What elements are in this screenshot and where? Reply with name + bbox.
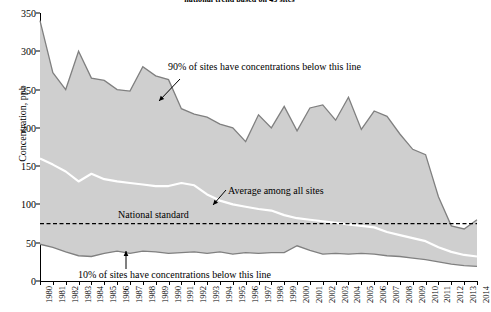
x-tick-mark [79,281,80,285]
x-tick-mark [271,281,272,285]
x-tick-mark [464,281,465,285]
x-tick-label: 2013 [468,286,478,303]
x-tick-label: 1990 [173,286,183,303]
x-tick-label: 2001 [314,286,324,303]
y-tick-label: 200 [21,122,36,133]
x-tick-mark [66,281,67,285]
x-tick-mark [233,281,234,285]
x-tick-label: 1984 [95,286,105,303]
x-tick-label: 1991 [185,286,195,303]
x-tick-label: 1998 [275,286,285,303]
x-tick-label: 1980 [44,286,54,303]
plot-svg [40,13,477,281]
x-tick-mark [169,281,170,285]
x-tick-mark [181,281,182,285]
x-tick-label: 1981 [57,286,67,303]
x-tick-label: 1985 [108,286,118,303]
x-tick-mark [207,281,208,285]
x-tick-label: 1994 [224,286,234,303]
x-tick-mark [374,281,375,285]
y-tick-label: 0 [31,276,36,287]
x-tick-label: 1988 [147,286,157,303]
national-standard-label: National standard [118,209,189,220]
x-tick-mark [284,281,285,285]
y-tick-label: 350 [21,8,36,19]
x-tick-mark [426,281,427,285]
x-tick-label: 1992 [198,286,208,303]
x-tick-mark [400,281,401,285]
p10-annotation-label: 10% of sites have concentrations below t… [78,269,271,280]
y-tick-label: 50 [26,237,36,248]
chart-title: national trend based on 43 sites [0,0,479,4]
x-tick-label: 2007 [391,286,401,303]
x-tick-label: 1996 [250,286,260,303]
y-tick-label: 250 [21,84,36,95]
y-tick-label: 100 [21,199,36,210]
x-tick-mark [130,281,131,285]
x-tick-label: 2012 [455,286,465,303]
x-tick-label: 2010 [430,286,440,303]
x-tick-mark [143,281,144,285]
plot-area: 050100150200250300350 198019811982198319… [40,13,477,281]
x-tick-label: 1995 [237,286,247,303]
x-tick-mark [310,281,311,285]
y-tick-label: 150 [21,161,36,172]
average-annotation-label: Average among all sites [228,185,324,196]
x-tick-label: 1983 [83,286,93,303]
x-tick-mark [297,281,298,285]
x-tick-label: 2002 [327,286,337,303]
x-tick-mark [91,281,92,285]
x-tick-label: 1982 [70,286,80,303]
x-tick-label: 2014 [481,286,491,303]
x-tick-mark [323,281,324,285]
x-tick-mark [53,281,54,285]
x-tick-label: 2004 [352,286,362,303]
x-tick-mark [40,281,41,285]
x-tick-label: 1989 [160,286,170,303]
x-tick-mark [259,281,260,285]
x-tick-mark [387,281,388,285]
x-tick-label: 2011 [442,286,452,303]
x-tick-mark [361,281,362,285]
x-tick-label: 1997 [263,286,273,303]
x-tick-mark [220,281,221,285]
x-tick-label: 2008 [404,286,414,303]
p90-annotation-label: 90% of sites have concentrations below t… [168,61,361,72]
x-tick-mark [117,281,118,285]
x-tick-mark [246,281,247,285]
x-tick-mark [413,281,414,285]
x-tick-label: 2006 [378,286,388,303]
x-tick-label: 1999 [288,286,298,303]
x-tick-mark [104,281,105,285]
x-tick-mark [438,281,439,285]
x-tick-label: 2003 [340,286,350,303]
y-tick-label: 300 [21,46,36,57]
x-tick-mark [451,281,452,285]
x-tick-mark [348,281,349,285]
x-tick-label: 1987 [134,286,144,303]
x-tick-mark [156,281,157,285]
x-tick-label: 2009 [417,286,427,303]
x-tick-mark [194,281,195,285]
x-tick-label: 1986 [121,286,131,303]
x-tick-mark [477,281,478,285]
x-tick-label: 1993 [211,286,221,303]
x-tick-label: 2005 [365,286,375,303]
x-tick-label: 2000 [301,286,311,303]
percentile-band-area [40,21,477,267]
x-tick-mark [336,281,337,285]
